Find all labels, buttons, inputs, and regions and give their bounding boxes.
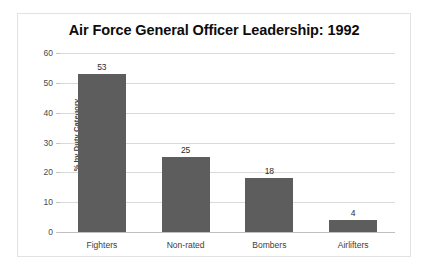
bar-value-bombers: 18 bbox=[265, 166, 274, 176]
bar-bombers[interactable] bbox=[245, 178, 293, 232]
x-tick-label-airlifters: Airlifters bbox=[338, 240, 369, 250]
bar-value-fighters: 53 bbox=[97, 62, 106, 72]
chart-title: Air Force General Officer Leadership: 19… bbox=[18, 22, 410, 38]
bar-non-rated[interactable] bbox=[162, 157, 210, 232]
y-tick-label-20: 20 bbox=[44, 167, 53, 177]
bar-slot-bombers: 18 Bombers bbox=[228, 53, 312, 232]
x-tick-label-non-rated: Non-rated bbox=[167, 240, 205, 250]
y-tick-label-60: 60 bbox=[44, 48, 53, 58]
bar-slot-fighters: 53 Fighters bbox=[60, 53, 144, 232]
y-tick-label-10: 10 bbox=[44, 197, 53, 207]
bar-airlifters[interactable] bbox=[329, 220, 377, 232]
y-tick-label-30: 30 bbox=[44, 138, 53, 148]
y-tick-label-40: 40 bbox=[44, 108, 53, 118]
x-tick-label-fighters: Fighters bbox=[87, 240, 118, 250]
bar-fighters[interactable] bbox=[78, 74, 126, 232]
chart-container: Air Force General Officer Leadership: 19… bbox=[17, 13, 411, 257]
bar-slot-non-rated: 25 Non-rated bbox=[144, 53, 228, 232]
y-tick-label-0: 0 bbox=[48, 227, 53, 237]
bar-value-airlifters: 4 bbox=[351, 208, 356, 218]
x-tick-label-bombers: Bombers bbox=[252, 240, 286, 250]
bar-value-non-rated: 25 bbox=[181, 145, 190, 155]
y-tick-label-50: 50 bbox=[44, 78, 53, 88]
bar-slot-airlifters: 4 Airlifters bbox=[311, 53, 395, 232]
gridline-0-baseline bbox=[60, 232, 395, 233]
tickmark-0 bbox=[56, 232, 60, 233]
plot-area: 60 50 40 30 20 10 0 53 Fighters 25 Non-r… bbox=[60, 53, 395, 232]
